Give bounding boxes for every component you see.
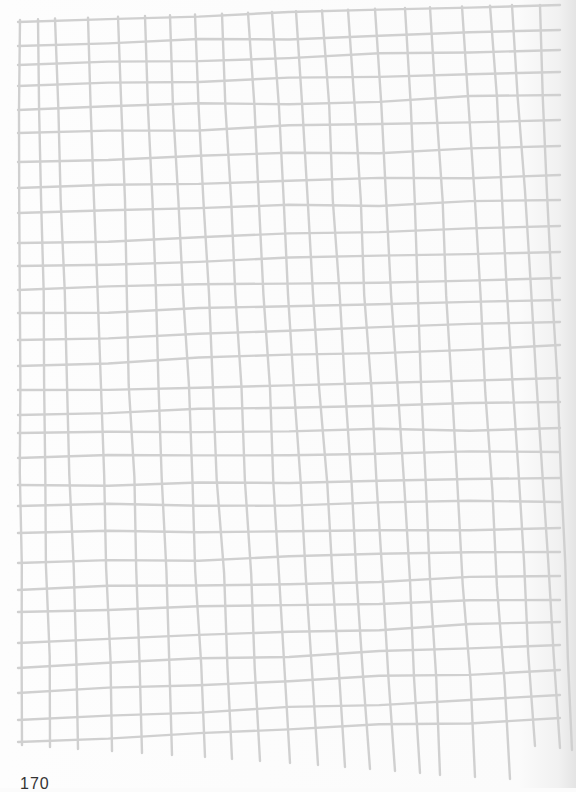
grid-line-horizontal bbox=[18, 622, 560, 643]
grid-line-horizontal bbox=[18, 695, 560, 720]
grid-line-horizontal bbox=[18, 378, 560, 390]
horizontal-grid-lines bbox=[18, 5, 560, 742]
grid-line-vertical bbox=[38, 19, 50, 747]
grid-line-horizontal bbox=[18, 501, 560, 506]
grid-line-horizontal bbox=[18, 50, 560, 65]
grid-line-horizontal bbox=[18, 528, 560, 533]
grid-line-horizontal bbox=[18, 120, 560, 133]
page-number: 170 bbox=[20, 776, 50, 792]
grid-line-horizontal bbox=[18, 478, 560, 486]
grid-line-vertical bbox=[19, 20, 22, 745]
grid-line-vertical bbox=[88, 18, 112, 751]
grid-line-horizontal bbox=[18, 95, 560, 110]
grid-line-horizontal bbox=[18, 402, 560, 415]
grid-line-horizontal bbox=[18, 576, 560, 590]
grid-line-vertical bbox=[118, 17, 142, 753]
grid-line-horizontal bbox=[18, 200, 560, 213]
grid-line-horizontal bbox=[18, 30, 560, 46]
grid-line-horizontal bbox=[18, 146, 560, 162]
grid-line-vertical bbox=[145, 16, 172, 755]
grid-line-vertical bbox=[490, 6, 535, 746]
grid-line-horizontal bbox=[18, 552, 560, 563]
grid-line-horizontal bbox=[18, 226, 560, 243]
grid-line-horizontal bbox=[18, 670, 560, 693]
grid-line-horizontal bbox=[18, 428, 560, 433]
grid-line-horizontal bbox=[18, 5, 560, 22]
grid-line-horizontal bbox=[18, 72, 560, 86]
grid-line-horizontal bbox=[18, 451, 560, 458]
grid-line-vertical bbox=[512, 5, 560, 748]
grid-line-horizontal bbox=[18, 600, 560, 612]
grid-line-horizontal bbox=[18, 645, 560, 668]
grid-line-horizontal bbox=[18, 175, 560, 188]
